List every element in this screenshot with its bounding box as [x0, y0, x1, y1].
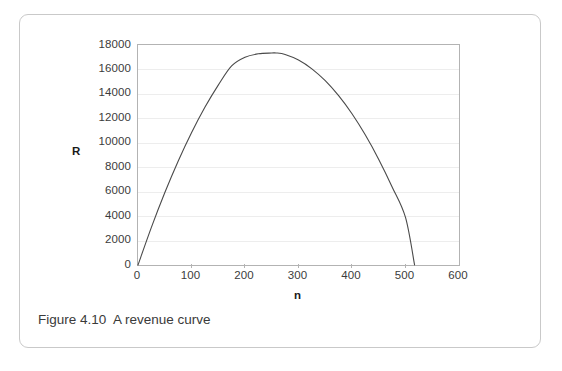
revenue-curve	[138, 45, 459, 265]
x-tick-label: 400	[321, 270, 381, 282]
gridline	[138, 265, 459, 266]
y-axis-ticks: 0200040006000800010000120001400016000180…	[73, 44, 131, 264]
x-tick-mark	[405, 264, 406, 268]
x-tick-label: 100	[161, 270, 221, 282]
x-tick-mark	[298, 264, 299, 268]
y-tick-label: 4000	[73, 210, 131, 222]
x-tick-label: 200	[214, 270, 274, 282]
y-tick-label: 10000	[73, 136, 131, 148]
x-tick-label: 300	[268, 270, 328, 282]
x-tick-mark	[244, 264, 245, 268]
y-tick-label: 12000	[73, 112, 131, 124]
x-tick-mark	[351, 264, 352, 268]
plot-area	[137, 44, 460, 266]
y-tick-label: 6000	[73, 185, 131, 197]
revenue-chart: R 02000400060008000100001200014000160001…	[0, 0, 562, 300]
y-tick-label: 0	[73, 259, 131, 271]
y-tick-label: 16000	[73, 63, 131, 75]
figure-caption: Figure 4.10 A revenue curve	[38, 312, 211, 328]
figure-root: R 02000400060008000100001200014000160001…	[0, 0, 562, 371]
x-tick-label: 600	[428, 270, 488, 282]
y-tick-label: 18000	[73, 39, 131, 51]
x-tick-label: 0	[107, 270, 167, 282]
y-tick-label: 8000	[73, 161, 131, 173]
x-tick-mark	[191, 264, 192, 268]
x-axis-label: n	[137, 290, 458, 302]
y-tick-label: 14000	[73, 87, 131, 99]
x-tick-label: 500	[375, 270, 435, 282]
revenue-curve-path	[138, 53, 415, 265]
x-axis-ticks: 0100200300400500600	[137, 270, 458, 288]
y-tick-label: 2000	[73, 234, 131, 246]
